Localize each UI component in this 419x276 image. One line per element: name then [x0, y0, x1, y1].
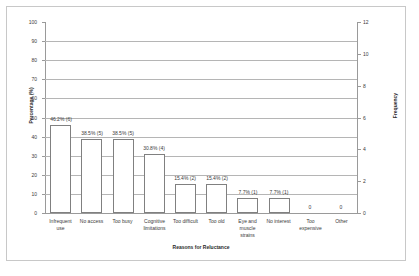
right-tick-label: 2	[363, 179, 379, 184]
bar	[206, 184, 227, 213]
category-label: Eye and muscle strains	[232, 218, 263, 238]
left-tick-label: 100	[21, 20, 37, 25]
right-tick-mark	[358, 149, 361, 150]
right-tick-label: 8	[363, 84, 379, 89]
category-label: Too busy	[107, 218, 138, 225]
category-label: Too expensive	[295, 218, 326, 232]
left-tick-label: 80	[21, 58, 37, 63]
bar	[175, 184, 196, 213]
right-tick-mark	[358, 54, 361, 55]
bar	[237, 198, 258, 213]
left-tick-label: 30	[21, 154, 37, 159]
bar	[50, 125, 71, 213]
bar-value-label: 15.4% (2)	[195, 176, 239, 181]
left-tick-mark	[42, 213, 45, 214]
left-tick-label: 20	[21, 173, 37, 178]
right-tick-label: 12	[363, 20, 379, 25]
right-tick-mark	[358, 22, 361, 23]
bar-value-label: 30.8% (4)	[132, 146, 176, 151]
left-tick-label: 40	[21, 135, 37, 140]
bar-value-label: 46.2% (6)	[39, 117, 83, 122]
category-label: No access	[76, 218, 107, 225]
right-tick-label: 0	[363, 211, 379, 216]
category-label: Cognitive limitations	[139, 218, 170, 232]
left-tick-label: 0	[21, 211, 37, 216]
bar-value-label: 38.5% (5)	[101, 131, 145, 136]
y-axis-title-right: Frequency	[393, 76, 398, 136]
bar-value-label: 7.7% (1)	[257, 190, 301, 195]
x-axis-baseline	[45, 213, 358, 214]
category-label: Other	[326, 218, 357, 225]
right-tick-label: 6	[363, 116, 379, 121]
bar	[113, 139, 134, 213]
right-tick-label: 4	[363, 147, 379, 152]
right-tick-mark	[358, 213, 361, 214]
bar	[144, 154, 165, 213]
right-tick-label: 10	[363, 52, 379, 57]
left-tick-label: 10	[21, 192, 37, 197]
right-tick-mark	[358, 86, 361, 87]
right-tick-mark	[358, 118, 361, 119]
left-tick-label: 90	[21, 39, 37, 44]
chart-frame: 0102030405060708090100 024681012 46.2% (…	[6, 6, 406, 261]
right-tick-mark	[358, 181, 361, 182]
category-label: No interest	[263, 218, 294, 225]
y-axis-title-left: Percentage (%)	[29, 76, 34, 136]
bar	[269, 198, 290, 213]
category-label: Too difficult	[170, 218, 201, 225]
bar-value-label: 0	[319, 205, 363, 210]
category-label: Infrequent use	[45, 218, 76, 232]
x-axis-title: Reasons for Reluctance	[45, 245, 357, 250]
bar	[81, 139, 102, 213]
category-label: Too old	[201, 218, 232, 225]
plot-area	[45, 22, 357, 213]
